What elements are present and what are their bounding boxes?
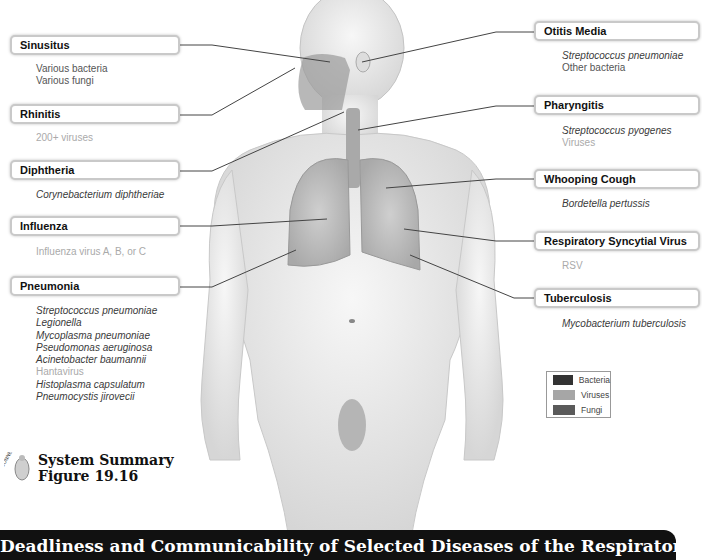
pathogen: Legionella bbox=[36, 317, 157, 329]
pathogen-list-diphtheria: Corynebacterium diphtheriae bbox=[36, 189, 164, 201]
pathogen: 200+ viruses bbox=[36, 132, 93, 144]
pathogen: Mycobacterium tuberculosis bbox=[562, 318, 686, 330]
disease-label-sinusitis: Sinusitus bbox=[10, 35, 180, 55]
disease-name: Pharyngitis bbox=[544, 99, 604, 111]
disease-label-otitis-media: Otitis Media bbox=[534, 21, 700, 41]
pathogen: Mycoplasma pneumoniae bbox=[36, 330, 157, 342]
fungi-swatch-icon bbox=[553, 405, 575, 415]
disease-name: Respiratory Syncytial Virus bbox=[544, 235, 687, 247]
disease-name: Whooping Cough bbox=[544, 173, 636, 185]
pathogen: Influenza virus A, B, or C bbox=[36, 246, 146, 258]
pathogen: Other bacteria bbox=[562, 62, 683, 74]
pathogen: Acinetobacter baumannii bbox=[36, 354, 157, 366]
pathogen: Streptococcus pyogenes bbox=[562, 125, 672, 137]
pathogen: Various fungi bbox=[36, 75, 108, 87]
legend-label: Bacteria bbox=[579, 375, 610, 385]
disease-label-pharyngitis: Pharyngitis bbox=[534, 95, 700, 115]
viruses-swatch-icon bbox=[553, 390, 575, 400]
pathogen-list-whooping-cough: Bordetella pertussis bbox=[562, 198, 650, 210]
pathogen-list-pneumonia: Streptococcus pneumoniae Legionella Myco… bbox=[36, 305, 157, 403]
legend-item-bacteria: Bacteria bbox=[553, 372, 610, 387]
legend-item-fungi: Fungi bbox=[553, 402, 610, 417]
system-summary[interactable]: CONNECT System Summary Figure 19.16 bbox=[4, 452, 174, 484]
summary-figure-number: Figure 19.16 bbox=[38, 468, 174, 484]
pathogen-list-otitis-media: Streptococcus pneumoniae Other bacteria bbox=[562, 50, 683, 75]
disease-label-diphtheria: Diphtheria bbox=[10, 160, 180, 180]
disease-label-rsv: Respiratory Syncytial Virus bbox=[534, 231, 700, 251]
disease-label-tuberculosis: Tuberculosis bbox=[534, 288, 700, 308]
disease-name: Otitis Media bbox=[544, 25, 606, 37]
pathogen-list-sinusitis: Various bacteria Various fungi bbox=[36, 63, 108, 88]
pathogen: Streptococcus pneumoniae bbox=[36, 305, 157, 317]
pathogen: Pseudomonas aeruginosa bbox=[36, 342, 157, 354]
pathogen: Pneumocystis jirovecii bbox=[36, 391, 157, 403]
legend-label: Fungi bbox=[581, 405, 602, 415]
legend: Bacteria Viruses Fungi bbox=[546, 371, 611, 418]
bacteria-swatch-icon bbox=[553, 375, 573, 385]
disease-name: Diphtheria bbox=[20, 164, 74, 176]
pathogen: RSV bbox=[562, 260, 583, 272]
disease-name: Influenza bbox=[20, 220, 68, 232]
pathogen-list-rhinitis: 200+ viruses bbox=[36, 132, 93, 144]
disease-name: Rhinitis bbox=[20, 108, 60, 120]
pathogen: Hantavirus bbox=[36, 366, 157, 378]
pathogen-list-pharyngitis: Streptococcus pyogenes Viruses bbox=[562, 125, 672, 150]
pathogen: Streptococcus pneumoniae bbox=[562, 50, 683, 62]
disease-label-whooping-cough: Whooping Cough bbox=[534, 169, 700, 189]
disease-label-influenza: Influenza bbox=[10, 216, 180, 236]
pathogen: Bordetella pertussis bbox=[562, 198, 650, 210]
pathogen: Various bacteria bbox=[36, 63, 108, 75]
pathogen-list-rsv: RSV bbox=[562, 260, 583, 272]
disease-label-rhinitis: Rhinitis bbox=[10, 104, 180, 124]
disease-label-pneumonia: Pneumonia bbox=[10, 276, 180, 296]
figure-banner-title: Deadliness and Communicability of Select… bbox=[0, 530, 676, 560]
pathogen-list-tuberculosis: Mycobacterium tuberculosis bbox=[562, 318, 686, 330]
legend-item-viruses: Viruses bbox=[553, 387, 610, 402]
pathogen: Corynebacterium diphtheriae bbox=[36, 189, 164, 201]
disease-name: Tuberculosis bbox=[544, 292, 612, 304]
pathogen-list-influenza: Influenza virus A, B, or C bbox=[36, 246, 146, 258]
disease-name: Sinusitus bbox=[20, 39, 70, 51]
disease-name: Pneumonia bbox=[20, 280, 79, 292]
summary-title: System Summary bbox=[38, 452, 174, 468]
pathogen: Viruses bbox=[562, 137, 672, 149]
pathogen: Histoplasma capsulatum bbox=[36, 379, 157, 391]
legend-label: Viruses bbox=[581, 390, 609, 400]
connect-body-icon: CONNECT bbox=[4, 452, 32, 484]
